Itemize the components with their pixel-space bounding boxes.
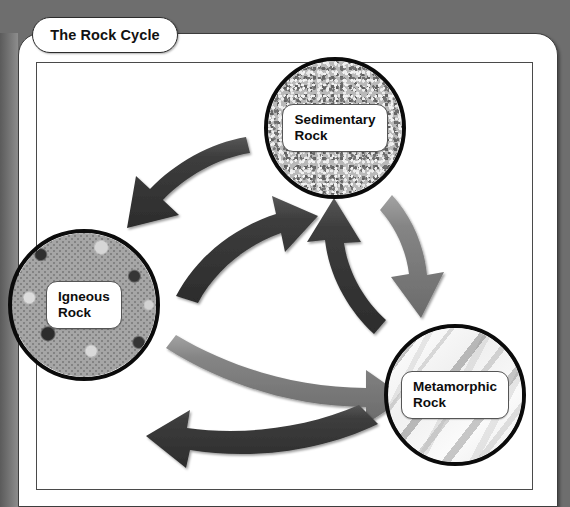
page-title: The Rock Cycle (50, 27, 159, 43)
igneous-label-line1: Igneous (58, 289, 110, 305)
igneous-rock-label: Igneous Rock (46, 281, 122, 330)
page-title-tab: The Rock Cycle (32, 17, 178, 53)
sedimentary-label-line1: Sedimentary (294, 112, 375, 128)
node-sedimentary-rock[interactable]: Sedimentary Rock (264, 57, 406, 199)
igneous-label-line2: Rock (58, 305, 110, 321)
node-igneous-rock[interactable]: Igneous Rock (8, 229, 160, 381)
sedimentary-label-line2: Rock (294, 128, 375, 144)
node-metamorphic-rock[interactable]: Metamorphic Rock (384, 324, 526, 466)
sedimentary-rock-label: Sedimentary Rock (282, 104, 387, 153)
screenshot-stage: The Rock Cycle (0, 0, 570, 507)
metamorphic-rock-label: Metamorphic Rock (401, 371, 509, 420)
metamorphic-label-line1: Metamorphic (413, 379, 497, 395)
metamorphic-label-line2: Rock (413, 395, 497, 411)
